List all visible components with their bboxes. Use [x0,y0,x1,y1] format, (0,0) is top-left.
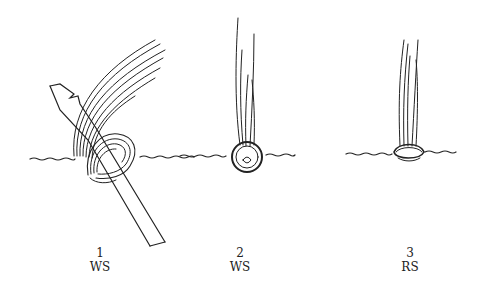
side-label: WS [70,260,130,274]
fabric-line-1 [30,158,75,160]
caption-figure-2: 2 WS [210,246,270,274]
side-label: WS [210,260,270,274]
figure-2-strands-knot [180,18,295,172]
fabric-line-2 [180,155,226,157]
caption-figure-3: 3 RS [380,246,440,274]
side-label: RS [380,260,440,274]
fabric-line-1b [140,156,194,158]
step-number: 1 [70,246,130,260]
caption-figure-1: 1 WS [70,246,130,274]
fabric-line-3 [346,153,392,155]
step-number: 2 [210,246,270,260]
step-number: 3 [380,246,440,260]
figure-3-finished-knot [346,40,456,161]
figure-1-hook-and-strands [30,40,194,246]
